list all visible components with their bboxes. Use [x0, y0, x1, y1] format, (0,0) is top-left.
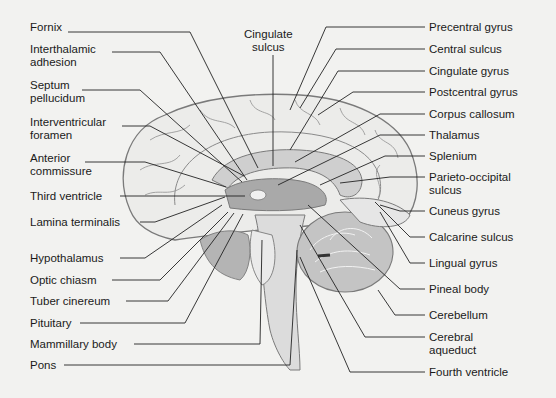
label-cuneus-gyrus: Cuneus gyrus	[429, 205, 500, 218]
label-cingulate-sulcus: Cingulate sulcus	[244, 28, 293, 54]
label-septum-pellucidum: Septum pellucidum	[30, 79, 85, 105]
label-pineal-body: Pineal body	[429, 283, 489, 296]
label-pons: Pons	[30, 359, 56, 372]
label-interthalamic-adhesion: Interthalamic adhesion	[30, 43, 96, 69]
label-cerebellum: Cerebellum	[429, 309, 488, 322]
label-cerebral-aqueduct: Cerebral aqueduct	[429, 331, 476, 357]
label-mammillary-body: Mammillary body	[30, 338, 117, 351]
label-fourth-ventricle: Fourth ventricle	[429, 366, 508, 379]
label-precentral-gyrus: Precentral gyrus	[429, 21, 513, 34]
label-parieto-occipital-sulcus: Parieto-occipital sulcus	[429, 171, 511, 197]
label-central-sulcus: Central sulcus	[429, 43, 502, 56]
label-corpus-callosum: Corpus callosum	[429, 108, 515, 121]
label-optic-chiasm: Optic chiasm	[30, 274, 96, 287]
label-tuber-cinereum: Tuber cinereum	[30, 295, 110, 308]
label-cingulate-gyrus: Cingulate gyrus	[429, 65, 509, 78]
label-calcarine-sulcus: Calcarine sulcus	[429, 231, 513, 244]
label-splenium: Splenium	[429, 150, 477, 163]
label-postcentral-gyrus: Postcentral gyrus	[429, 86, 518, 99]
label-anterior-commissure: Anterior commissure	[30, 152, 92, 178]
label-lingual-gyrus: Lingual gyrus	[429, 257, 497, 270]
label-third-ventricle: Third ventricle	[30, 190, 102, 203]
label-fornix: Fornix	[30, 21, 62, 34]
label-hypothalamus: Hypothalamus	[30, 252, 104, 265]
label-interventricular-foramen: Interventricular foramen	[30, 116, 106, 142]
label-thalamus: Thalamus	[429, 129, 480, 142]
label-pituitary: Pituitary	[30, 317, 72, 330]
label-lamina-terminalis: Lamina terminalis	[30, 216, 120, 229]
